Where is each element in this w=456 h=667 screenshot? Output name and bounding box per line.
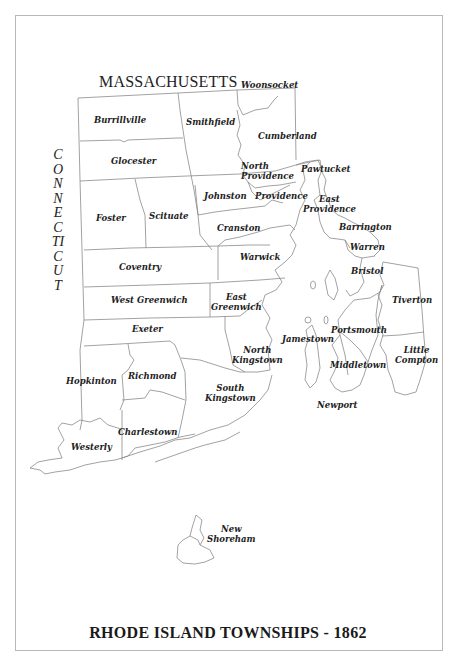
town-label-woonsocket: Woonsocket [241,80,298,90]
rhode-island-map-outline [0,0,456,667]
massachusetts-label: MASSACHUSETTS [99,73,238,91]
town-label-charlestown: Charlestown [118,427,177,437]
town-label-tiverton: Tiverton [392,295,432,305]
town-label-foster: Foster [96,213,126,223]
town-label-exeter: Exeter [132,324,163,334]
town-label-scituate: Scituate [149,211,189,221]
town-label-smithfield: Smithfield [186,117,235,127]
town-label-coventry: Coventry [119,262,161,272]
town-label-east-greenwich: East Greenwich [211,292,262,312]
town-label-burrillville: Burrillville [94,115,146,125]
map-title: RHODE ISLAND TOWNSHIPS - 1862 [0,624,456,642]
town-label-warwick: Warwick [240,252,280,262]
town-label-north-providence: North Providence [241,161,294,181]
town-label-north-kingstown: North Kingstown [232,345,283,365]
town-label-hopkinton: Hopkinton [66,376,117,386]
town-label-south-kingstown: South Kingstown [205,383,256,403]
town-label-cumberland: Cumberland [258,131,317,141]
town-label-richmond: Richmond [128,371,176,381]
town-label-cranston: Cranston [217,223,261,233]
town-label-portsmouth: Portsmouth [331,325,387,335]
town-label-west-greenwich: West Greenwich [111,295,188,305]
town-label-bristol: Bristol [351,266,384,276]
town-label-pawtucket: Pawtucket [301,164,351,174]
town-label-new-shoreham: New Shoreham [207,524,256,544]
town-label-barrington: Barrington [339,222,392,232]
town-label-glocester: Glocester [111,156,156,166]
town-label-east-providence: East Providence [303,194,356,214]
town-label-westerly: Westerly [71,442,112,452]
town-label-middletown: Middletown [330,360,386,370]
town-label-newport: Newport [317,400,358,410]
town-label-johnston: Johnston [204,191,247,201]
town-label-jamestown: Jamestown [282,334,334,344]
town-label-warren: Warren [350,242,385,252]
town-label-little-compton: Little Compton [395,345,438,365]
town-label-providence: Providence [255,191,308,201]
connecticut-label: CONNECTICUT [51,148,65,293]
